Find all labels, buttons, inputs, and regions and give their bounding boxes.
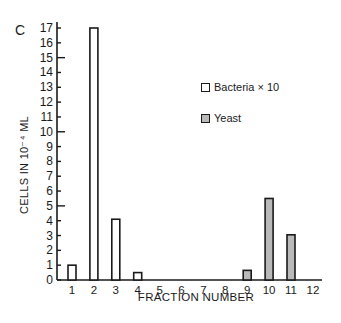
bar-chart: 01234567891011121314151617 1234567891011…	[0, 0, 341, 323]
bar	[112, 219, 120, 280]
bar	[134, 273, 142, 280]
x-tick-label: 11	[285, 284, 297, 296]
y-tick-label: 17	[40, 21, 54, 35]
y-tick-label: 9	[46, 140, 53, 154]
legend-item-yeast: Yeast	[201, 111, 279, 125]
bars	[68, 28, 295, 280]
y-tick-label: 14	[40, 65, 54, 79]
y-tick-label: 11	[41, 110, 54, 124]
y-tick-label: 12	[40, 95, 54, 109]
legend-item-bacteria: Bacteria × 10	[201, 80, 279, 94]
legend-label-bacteria: Bacteria × 10	[214, 81, 279, 93]
bar	[287, 235, 295, 280]
panel-label: C	[15, 22, 25, 38]
yeast-swatch-icon	[201, 114, 210, 123]
legend-label-yeast: Yeast	[214, 112, 241, 124]
bar	[90, 28, 98, 280]
y-tick-label: 3	[46, 229, 53, 243]
x-axis-label: FRACTION NUMBER	[138, 291, 254, 303]
y-axis-ticks: 01234567891011121314151617	[40, 21, 65, 287]
bar	[68, 265, 76, 280]
x-tick-label: 10	[263, 284, 276, 296]
y-tick-label: 13	[40, 80, 54, 94]
x-tick-label: 12	[307, 284, 320, 296]
bar	[265, 198, 273, 280]
bacteria-swatch-icon	[201, 83, 210, 92]
bar	[243, 270, 251, 280]
legend: Bacteria × 10 Yeast	[201, 80, 279, 142]
y-tick-label: 2	[46, 243, 53, 257]
y-tick-label: 5	[46, 199, 53, 213]
x-tick-label: 1	[69, 284, 75, 296]
x-tick-label: 2	[91, 284, 97, 296]
x-tick-label: 3	[113, 284, 119, 296]
y-tick-label: 10	[40, 125, 54, 139]
y-tick-label: 8	[46, 154, 53, 168]
y-tick-label: 0	[46, 273, 53, 287]
y-tick-label: 7	[46, 169, 53, 183]
y-tick-label: 15	[40, 51, 54, 65]
y-tick-label: 4	[46, 214, 53, 228]
y-tick-label: 6	[46, 184, 53, 198]
y-axis-label: CELLS IN 10⁻⁴ ML	[18, 116, 31, 214]
y-tick-label: 1	[46, 258, 53, 272]
y-tick-label: 16	[40, 36, 54, 50]
